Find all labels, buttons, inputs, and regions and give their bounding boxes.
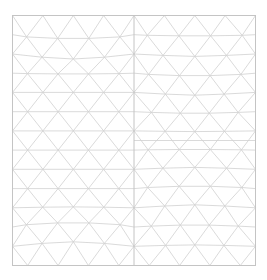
mesh-edge bbox=[42, 57, 73, 59]
mesh-edge bbox=[119, 246, 134, 265]
left-panel-mesh bbox=[13, 16, 135, 266]
mesh-edge bbox=[227, 150, 242, 168]
mesh-edge bbox=[238, 92, 255, 112]
mesh-edge bbox=[209, 206, 225, 225]
mesh-edge bbox=[88, 169, 103, 188]
mesh-edge bbox=[58, 38, 74, 59]
mesh-edge bbox=[238, 226, 255, 227]
mesh-edge bbox=[120, 16, 134, 37]
mesh-edge bbox=[195, 56, 210, 75]
mesh-edge bbox=[42, 223, 58, 244]
mesh-edge bbox=[166, 245, 180, 265]
mesh-edge bbox=[104, 207, 134, 208]
mesh-edge bbox=[210, 76, 224, 95]
mesh-edge bbox=[105, 57, 120, 73]
mesh-edge bbox=[166, 245, 195, 246]
mesh-edge bbox=[180, 113, 195, 131]
mesh-edge bbox=[134, 245, 166, 246]
mesh-edge bbox=[89, 207, 104, 223]
mesh-edge bbox=[73, 74, 88, 93]
mesh-edge bbox=[119, 74, 134, 93]
mesh-edge bbox=[13, 208, 27, 225]
mesh-edge bbox=[134, 168, 163, 169]
mesh-edge bbox=[238, 208, 255, 226]
mesh-edge bbox=[119, 112, 134, 131]
mesh-edge bbox=[73, 38, 89, 59]
mesh-edge bbox=[28, 169, 43, 188]
mesh-edge bbox=[88, 112, 103, 131]
mesh-edge bbox=[27, 37, 42, 57]
mesh-edge bbox=[242, 16, 255, 36]
mesh-edge bbox=[26, 225, 42, 244]
mesh-edge bbox=[209, 112, 238, 113]
mesh-edge bbox=[26, 223, 57, 225]
mesh-edge bbox=[148, 150, 163, 168]
mesh-edge bbox=[58, 189, 73, 207]
mesh-edge bbox=[165, 206, 181, 225]
mesh-edge bbox=[104, 207, 120, 225]
mesh-edge bbox=[28, 189, 43, 208]
mesh-edge bbox=[13, 225, 27, 247]
mesh-edge bbox=[210, 168, 226, 186]
mesh-edge bbox=[149, 55, 163, 74]
mesh-edge bbox=[134, 74, 149, 92]
mesh-edge bbox=[13, 37, 27, 54]
mesh-edge bbox=[134, 35, 147, 54]
mesh-edge bbox=[210, 186, 241, 187]
mesh-edge bbox=[224, 226, 238, 245]
mesh-edge bbox=[148, 168, 163, 187]
mesh-edge bbox=[179, 76, 194, 96]
mesh-edge bbox=[151, 112, 180, 113]
mesh-edge bbox=[73, 150, 88, 169]
mesh-edge bbox=[165, 94, 194, 95]
mesh-edge bbox=[42, 242, 73, 244]
mesh-edge bbox=[195, 167, 227, 168]
mesh-edge bbox=[73, 57, 104, 59]
mesh-edge bbox=[180, 95, 195, 113]
mesh-edge bbox=[242, 169, 256, 187]
mesh-edge bbox=[224, 112, 238, 131]
mesh-edge bbox=[28, 150, 43, 169]
mesh-edge bbox=[195, 76, 210, 96]
mesh-edge bbox=[43, 189, 58, 208]
mesh-edge bbox=[120, 225, 134, 227]
mesh-edge bbox=[43, 92, 58, 111]
mesh-edge bbox=[13, 150, 28, 169]
mesh-edge bbox=[241, 54, 256, 74]
mesh-edge bbox=[105, 37, 120, 57]
mesh-edge bbox=[104, 169, 119, 188]
mesh-edge bbox=[28, 131, 43, 150]
mesh-edge bbox=[105, 54, 135, 57]
mesh-edge bbox=[104, 150, 119, 169]
mesh-edge bbox=[119, 169, 134, 188]
mesh-edge bbox=[13, 246, 28, 265]
mesh-edge bbox=[241, 73, 256, 74]
mesh-edge bbox=[73, 59, 88, 74]
mesh-edge bbox=[147, 35, 163, 55]
mesh-edge bbox=[210, 186, 224, 206]
mesh-edge bbox=[134, 188, 148, 208]
mesh-edge bbox=[209, 94, 224, 113]
mesh-edge bbox=[89, 223, 120, 225]
mesh-edge bbox=[73, 242, 104, 244]
mesh-edge bbox=[58, 74, 73, 93]
mesh-edge bbox=[210, 150, 226, 169]
mesh-edge bbox=[134, 206, 165, 208]
mesh-edge bbox=[42, 243, 58, 265]
mesh-edge bbox=[89, 38, 105, 57]
mesh-edge bbox=[28, 74, 43, 93]
mesh-edge bbox=[88, 243, 104, 265]
mesh-edge bbox=[13, 74, 28, 93]
mesh-edge bbox=[195, 205, 225, 206]
mesh-edge bbox=[195, 167, 211, 186]
mesh-edge bbox=[58, 131, 73, 150]
mesh-edge bbox=[180, 205, 195, 225]
mesh-edge bbox=[134, 54, 163, 55]
mesh-edge bbox=[210, 74, 241, 75]
mesh-edge bbox=[242, 188, 256, 208]
mesh-edge bbox=[13, 131, 28, 150]
mesh-edge bbox=[104, 243, 118, 265]
mesh-edge bbox=[163, 55, 179, 75]
mesh-edge bbox=[119, 189, 134, 208]
mesh-edge bbox=[164, 16, 179, 36]
